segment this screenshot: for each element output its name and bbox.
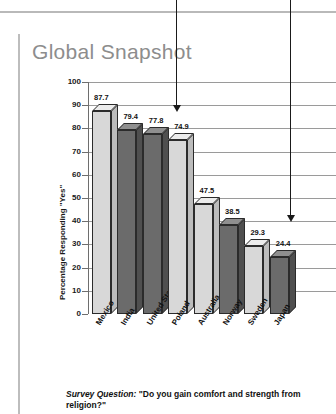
- arrow-2-head: [287, 215, 295, 222]
- bar: [194, 197, 213, 314]
- bar-face: [92, 111, 111, 314]
- bar: [92, 104, 111, 314]
- bar-value-label: 74.9: [174, 122, 189, 131]
- bar-value-label: 24.4: [276, 239, 291, 248]
- y-axis-tick-label: 90: [59, 101, 81, 109]
- bar-side: [289, 250, 296, 314]
- bar-value-label: 79.4: [123, 112, 138, 121]
- arrow-2-line: [290, 0, 291, 216]
- bar-face: [168, 140, 187, 314]
- y-axis-tick-label: 60: [59, 171, 81, 179]
- bar-value-label: 38.5: [225, 207, 240, 216]
- y-axis-tick: [82, 314, 88, 315]
- y-axis-line: [88, 82, 89, 314]
- bar-face: [117, 130, 136, 314]
- bar-value-label: 87.7: [94, 93, 109, 102]
- y-axis-tick-label: 0: [59, 310, 81, 318]
- chart-caption: Survey Question: "Do you gain comfort an…: [66, 389, 324, 411]
- y-axis-title: Percentage Responding "Yes": [58, 185, 67, 300]
- arrow-1-head: [173, 105, 181, 112]
- bar-value-label: 47.5: [200, 186, 215, 195]
- y-axis-tick-label: 100: [59, 78, 81, 86]
- gridline: [89, 82, 336, 83]
- gridline: [89, 105, 336, 106]
- bar: [168, 133, 187, 314]
- bar-face: [143, 134, 162, 314]
- bar-chart: 1009080706050403020100Percentage Respond…: [0, 0, 336, 414]
- arrow-1-line: [176, 0, 177, 106]
- y-axis-tick-label: 80: [59, 124, 81, 132]
- caption-lead: Survey Question:: [66, 389, 136, 399]
- bar: [117, 123, 136, 314]
- bar-value-label: 77.8: [149, 116, 164, 125]
- bar-value-label: 29.3: [250, 228, 265, 237]
- y-axis-tick-label: 70: [59, 148, 81, 156]
- bar: [143, 127, 162, 314]
